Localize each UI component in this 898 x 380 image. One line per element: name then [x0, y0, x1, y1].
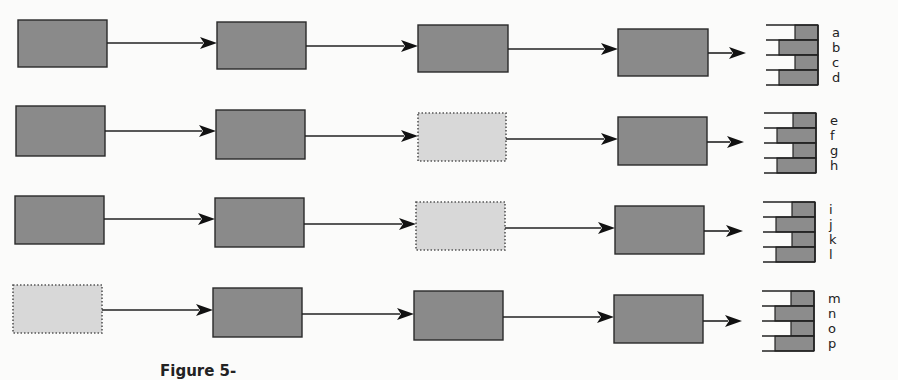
stack-label-n: n [828, 306, 836, 321]
stack-slot [776, 247, 815, 262]
arrow-3 [505, 222, 615, 234]
stage-box-4 [618, 29, 708, 76]
stage-box-3 [414, 291, 503, 340]
arrow-2 [304, 218, 416, 230]
stack-slot [776, 217, 815, 232]
arrow-4 [707, 136, 744, 148]
stack-slot [779, 40, 818, 55]
stage-box-3 [418, 25, 508, 72]
output-stack: abcd [766, 25, 840, 85]
stack-label-a: a [832, 25, 840, 40]
stack-label-m: m [828, 291, 841, 306]
figure-caption: Figure 5- [160, 362, 236, 380]
stack-slot [791, 321, 814, 336]
arrow-4 [708, 47, 746, 59]
empty-stage-box-3 [416, 202, 505, 250]
pipeline-row-2: efgh [16, 106, 838, 173]
stack-label-c: c [832, 55, 839, 70]
stack-slot [795, 25, 818, 40]
stack-label-j: j [828, 217, 833, 232]
pipeline-row-1: abcd [18, 20, 840, 85]
arrow-3 [503, 311, 614, 323]
stack-label-h: h [830, 158, 838, 173]
stack-slot [793, 143, 816, 158]
stack-slot [791, 291, 814, 306]
stage-box-2 [217, 22, 306, 69]
stage-box-2 [213, 288, 302, 337]
pipeline-row-4: mnop [13, 285, 841, 351]
stage-box-2 [216, 110, 305, 159]
arrow-3 [508, 43, 618, 55]
arrow-1 [104, 213, 215, 225]
stage-box-1 [15, 196, 104, 244]
output-stack: efgh [764, 113, 838, 173]
stack-label-k: k [829, 232, 837, 247]
pipeline-row-3: ijkl [15, 196, 837, 262]
stage-box-2 [215, 198, 304, 247]
output-stack: mnop [762, 291, 841, 351]
stack-slot [775, 306, 814, 321]
stack-label-b: b [832, 40, 840, 55]
stack-slot [792, 202, 815, 217]
stack-label-f: f [830, 128, 835, 143]
stack-slot [777, 158, 816, 173]
stack-label-e: e [830, 113, 838, 128]
arrow-1 [105, 125, 216, 137]
stack-label-p: p [828, 336, 836, 351]
stack-slot [775, 336, 814, 351]
stack-slot [793, 113, 816, 128]
stage-box-4 [614, 295, 703, 343]
stack-slot [777, 128, 816, 143]
output-stack: ijkl [763, 202, 837, 262]
stage-box-1 [18, 20, 107, 67]
stage-box-4 [615, 206, 704, 254]
stack-label-g: g [830, 143, 838, 158]
arrow-3 [506, 133, 618, 145]
stack-label-i: i [829, 202, 833, 217]
stack-slot [779, 70, 818, 85]
empty-stage-box-1 [13, 285, 102, 333]
empty-stage-box-3 [418, 113, 506, 161]
arrow-2 [305, 130, 418, 142]
arrow-1 [107, 37, 217, 49]
stack-label-l: l [829, 247, 833, 262]
stack-label-d: d [832, 70, 840, 85]
arrow-2 [306, 40, 418, 52]
arrow-4 [704, 225, 743, 237]
stack-slot [795, 55, 818, 70]
arrow-4 [703, 315, 742, 327]
stack-slot [792, 232, 815, 247]
stage-box-1 [16, 106, 105, 156]
stage-box-4 [618, 117, 707, 165]
stack-label-o: o [828, 321, 836, 336]
arrow-1 [102, 304, 213, 316]
arrow-2 [302, 308, 414, 320]
